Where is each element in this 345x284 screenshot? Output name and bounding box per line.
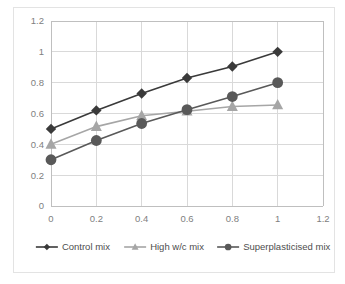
legend-item-control-mix[interactable]: Control mix: [36, 241, 110, 252]
data-point-marker: [227, 91, 238, 102]
data-series-layer: [45, 47, 283, 166]
x-axis-tick-labels: 00.20.40.60.811.2: [48, 213, 329, 224]
x-tick-label: 1: [275, 213, 280, 224]
x-tick-label: 0.2: [90, 213, 103, 224]
legend-label: High w/c mix: [150, 241, 204, 252]
series-line: [51, 105, 278, 144]
legend-label: Control mix: [62, 241, 110, 252]
y-tick-label: 0.6: [31, 108, 44, 119]
data-point-marker: [91, 105, 101, 115]
legend-item-superplasticised-mix[interactable]: Superplasticised mix: [217, 241, 330, 252]
data-point-marker: [136, 118, 147, 129]
data-point-marker: [182, 73, 192, 83]
x-tick-label: 0: [48, 213, 53, 224]
y-tick-label: 1.2: [31, 15, 44, 26]
x-tick-label: 0.6: [180, 213, 193, 224]
data-point-marker: [272, 99, 283, 109]
series-high-w-c-mix: [45, 99, 283, 149]
data-point-marker: [272, 77, 283, 88]
y-tick-label: 0.2: [31, 170, 44, 181]
data-point-marker: [46, 154, 57, 165]
data-point-marker: [182, 104, 193, 115]
legend-marker-icon: [44, 244, 50, 250]
y-tick-label: 0.4: [31, 139, 44, 150]
legend-marker-icon: [225, 244, 232, 251]
data-point-marker: [136, 88, 146, 98]
x-tick-label: 0.4: [135, 213, 148, 224]
legend-label: Superplasticised mix: [243, 241, 330, 252]
data-point-marker: [91, 135, 102, 146]
line-chart: 00.20.40.60.811.2 00.20.40.60.811.2 Cont…: [14, 8, 336, 274]
y-tick-label: 1: [39, 46, 44, 57]
data-point-marker: [272, 47, 282, 57]
legend-item-high-w-c-mix[interactable]: High w/c mix: [124, 241, 204, 252]
series-line: [51, 83, 278, 160]
series-superplasticised-mix: [46, 77, 283, 165]
data-point-marker: [46, 124, 56, 134]
x-tick-label: 1.2: [316, 213, 329, 224]
series-control-mix: [46, 47, 283, 134]
chart-container: 00.20.40.60.811.2 00.20.40.60.811.2 Cont…: [13, 7, 335, 273]
data-point-marker: [227, 61, 237, 71]
chart-legend: Control mixHigh w/c mixSuperplasticised …: [36, 241, 331, 252]
y-tick-label: 0: [39, 200, 44, 211]
y-axis-tick-labels: 00.20.40.60.811.2: [31, 15, 44, 211]
y-tick-label: 0.8: [31, 77, 44, 88]
x-tick-label: 0.8: [226, 213, 239, 224]
